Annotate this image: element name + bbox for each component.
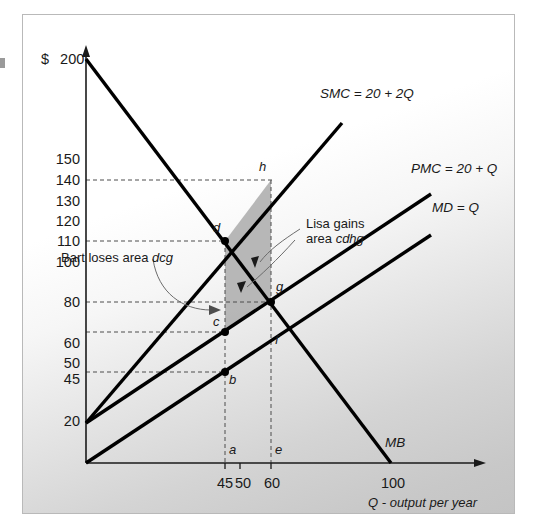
y-axis-currency-label: $ 200	[41, 51, 84, 68]
point-label-a: a	[229, 443, 236, 458]
annotation-bart: Bart loses area dcg	[61, 251, 173, 266]
curve-label-md: MD = Q	[432, 200, 479, 216]
point-label-d: d	[213, 221, 220, 236]
annotation-lisa-line2: area cdhg	[306, 232, 365, 247]
point-label-b: b	[229, 373, 236, 388]
annotation-lisa-text: area	[306, 231, 336, 246]
annotation-bart-area: dcg	[152, 250, 173, 265]
annotation-bart-text: Bart loses area	[61, 250, 152, 265]
point-label-f: f	[275, 333, 279, 348]
shaded-area-cdhg	[225, 180, 271, 332]
ytick-60: 60	[33, 335, 80, 352]
xtick-50: 50	[227, 475, 259, 491]
x-axis-arrow	[474, 459, 486, 467]
ytick-80: 80	[33, 294, 80, 311]
annotation-lisa: Lisa gains area cdhg	[306, 217, 365, 247]
ytick-130: 130	[33, 193, 80, 210]
curve-label-pmc: PMC = 20 + Q	[411, 161, 497, 177]
point-dot-g	[267, 298, 275, 306]
point-dot-c	[221, 328, 229, 336]
point-label-h: h	[259, 160, 266, 175]
dollar-sign: $	[41, 51, 49, 67]
point-label-g: g	[276, 280, 283, 295]
economics-diagram-frame: $ 200 150 140 130 120 110 100 80 60 50 4…	[22, 14, 515, 514]
point-label-c: c	[213, 315, 220, 330]
ytick-110: 110	[33, 233, 80, 250]
point-dot-b	[221, 368, 229, 376]
point-label-e: e	[275, 443, 282, 458]
ytick-50: 50	[33, 355, 80, 372]
x-axis-ticks	[225, 463, 271, 469]
point-dot-d	[221, 237, 229, 245]
annotation-lisa-line1: Lisa gains	[306, 217, 365, 232]
curve-label-smc: SMC = 20 + 2Q	[320, 86, 414, 102]
ytick-140: 140	[33, 172, 80, 189]
page-edge-mark	[0, 58, 5, 68]
xtick-100: 100	[375, 475, 411, 491]
ytick-120: 120	[33, 213, 80, 230]
x-axis-title: Q - output per year	[368, 496, 477, 511]
ytick-45: 45	[33, 371, 80, 388]
curve-label-mb: MB	[385, 435, 405, 451]
ytick-150: 150	[33, 151, 80, 168]
xtick-60: 60	[256, 475, 288, 491]
ytick-20: 20	[33, 413, 80, 430]
annotation-lisa-area: cdhg	[336, 231, 364, 246]
figure-page: $ 200 150 140 130 120 110 100 80 60 50 4…	[0, 0, 535, 529]
ytick-200: 200	[60, 51, 84, 67]
